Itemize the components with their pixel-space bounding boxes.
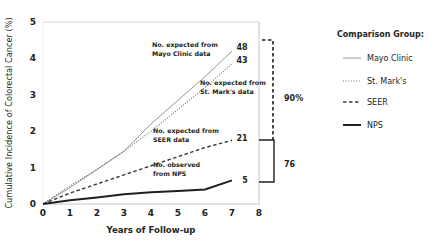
- plot-axes: 012345678012345: [30, 17, 262, 218]
- series-annotations: No. expected fromMayo Clinic data48No. e…: [152, 41, 266, 185]
- series-end-count: 5: [242, 176, 248, 185]
- series-annotation: No. observed: [153, 161, 200, 168]
- bracket-dashed: [262, 40, 273, 140]
- x-axis-title: Years of Follow-up: [105, 225, 195, 235]
- y-tick-label: 4: [30, 53, 36, 63]
- x-tick-label: 1: [67, 208, 73, 218]
- x-tick-label: 2: [94, 208, 100, 218]
- x-tick-label: 6: [202, 208, 208, 218]
- series-annotation: No. expected from: [152, 41, 218, 49]
- legend-item: Mayo Clinic: [343, 54, 413, 63]
- x-tick-label: 7: [229, 208, 235, 218]
- bracket-label-76: 76: [284, 160, 296, 169]
- legend-label: SEER: [367, 98, 388, 107]
- y-tick-label: 3: [30, 90, 36, 100]
- series-end-count: 43: [236, 56, 247, 65]
- legend-label: NPS: [367, 121, 383, 130]
- x-tick-label: 0: [40, 208, 46, 218]
- difference-brackets: 90%76: [259, 40, 303, 182]
- legend-item: SEER: [343, 98, 388, 107]
- series-annotation: St. Mark's data: [200, 88, 254, 95]
- bracket-solid: [259, 140, 274, 182]
- legend-item: St. Mark's: [343, 77, 406, 86]
- legend-label: Mayo Clinic: [367, 54, 413, 63]
- series-annotation: No. expected from: [200, 79, 266, 87]
- series-annotation: No. expected from: [153, 127, 219, 135]
- y-axis-title: Cumulative Incidence of Colorectal Cance…: [4, 17, 14, 208]
- x-tick-label: 4: [148, 208, 154, 218]
- legend-label: St. Mark's: [367, 77, 406, 86]
- series-line-seer: [43, 140, 232, 204]
- series-annotation: from NPS: [153, 170, 187, 177]
- x-tick-label: 8: [256, 208, 262, 218]
- series-annotation: Mayo Clinic data: [152, 50, 210, 58]
- incidence-chart: 012345678012345 No. expected fromMayo Cl…: [0, 0, 435, 241]
- legend: Comparison Group: Mayo ClinicSt. Mark'sS…: [337, 30, 424, 130]
- y-tick-label: 5: [30, 17, 36, 27]
- bracket-label-90: 90%: [284, 94, 303, 103]
- y-tick-label: 0: [30, 199, 36, 209]
- y-tick-label: 1: [30, 163, 36, 173]
- x-tick-label: 5: [175, 208, 181, 218]
- x-tick-label: 3: [121, 208, 127, 218]
- series-end-count: 48: [236, 43, 248, 52]
- series-end-count: 21: [236, 134, 248, 143]
- series-annotation: SEER data: [153, 136, 189, 143]
- y-tick-label: 2: [30, 126, 36, 136]
- legend-title: Comparison Group:: [337, 30, 424, 39]
- legend-item: NPS: [343, 121, 383, 130]
